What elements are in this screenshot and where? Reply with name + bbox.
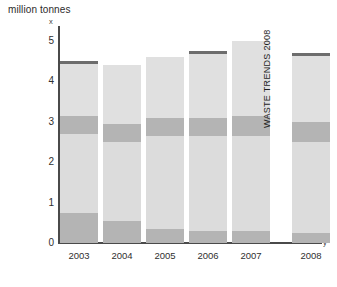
bar-segment-lower-light	[60, 134, 98, 213]
x-axis-tick-label-2005: 2005	[154, 250, 175, 261]
bar-segment-lower-light	[146, 136, 184, 229]
bar-segment-upper-light	[103, 65, 141, 124]
bar-segment-upper-light	[60, 61, 98, 116]
x-axis-tick-labels: 200320042005200620072008	[0, 250, 337, 270]
y-axis-tick-label: 2	[8, 156, 54, 167]
bar-segment-bottom-band	[292, 233, 330, 243]
bar-top-cap	[189, 51, 227, 54]
bar-segment-lower-light	[103, 142, 141, 221]
bar-segment-upper-light	[146, 57, 184, 118]
bar-2004	[103, 65, 141, 243]
x-axis-tick-label-2008: 2008	[300, 250, 321, 261]
bar-segment-middle-band	[146, 118, 184, 136]
bar-2003	[60, 61, 98, 243]
bar-segment-lower-light	[189, 136, 227, 231]
y-axis-tick-label: 1	[8, 196, 54, 207]
y-axis-tick-label: 3	[8, 115, 54, 126]
bar-segment-middle-band	[292, 122, 330, 142]
y-axis-tick-label: 0	[8, 237, 54, 248]
y-axis-tick-label: 5	[8, 35, 54, 46]
bar-segment-upper-light	[292, 53, 330, 122]
bar-segment-middle-band	[189, 118, 227, 136]
bar-2008	[292, 53, 330, 243]
bar-segment-lower-light	[232, 136, 270, 231]
bar-segment-lower-light	[292, 142, 330, 233]
bar-segment-upper-light	[189, 51, 227, 118]
watermark-label: WASTE TRENDS 2008	[262, 29, 272, 128]
x-axis-tick-label-2006: 2006	[197, 250, 218, 261]
bar-segment-bottom-band	[60, 213, 98, 243]
bar-2005	[146, 57, 184, 243]
bar-segment-bottom-band	[103, 221, 141, 243]
bar-2006	[189, 51, 227, 243]
y-axis-tick-label: 4	[8, 75, 54, 86]
bar-top-cap	[292, 53, 330, 56]
plot-area	[60, 28, 322, 243]
y-axis-tick-labels: 012345	[0, 0, 54, 287]
bar-segment-bottom-band	[146, 229, 184, 243]
bar-segment-middle-band	[103, 124, 141, 142]
bar-segment-bottom-band	[189, 231, 227, 243]
bar-segment-middle-band	[60, 116, 98, 134]
bar-chart: million tonnes x y 012345 20032004200520…	[0, 0, 337, 287]
x-axis-tick-label-2007: 2007	[240, 250, 261, 261]
bar-segment-bottom-band	[232, 231, 270, 243]
bar-top-cap	[60, 61, 98, 64]
x-axis-tick-label-2003: 2003	[68, 250, 89, 261]
x-axis-tick-label-2004: 2004	[111, 250, 132, 261]
